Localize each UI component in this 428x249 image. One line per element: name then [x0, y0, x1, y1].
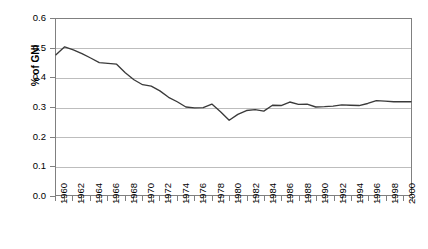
y-axis-title: % of GNI [30, 31, 41, 101]
x-axis-tick-mark [142, 196, 143, 201]
x-axis-tick-label: 1988 [303, 183, 312, 204]
y-axis-tick-label: 0.1 [12, 161, 46, 170]
x-axis-tick-label: 1996 [372, 183, 381, 204]
series-layer [56, 19, 411, 195]
y-axis-tick-label: 0.4 [12, 72, 46, 81]
x-axis-tick-mark [351, 196, 352, 201]
plot-area [55, 18, 412, 196]
x-axis-tick-mark [125, 196, 126, 201]
x-axis-tick-label: 1990 [320, 183, 329, 204]
x-axis-tick-label: 1960 [59, 183, 68, 204]
x-axis-tick-mark [194, 196, 195, 201]
x-axis-tick-label: 1998 [390, 183, 399, 204]
x-axis-tick-label: 1974 [181, 183, 190, 204]
x-axis-tick-mark [368, 196, 369, 201]
x-axis-tick-label: 1980 [233, 183, 242, 204]
x-axis-tick-mark [403, 196, 404, 201]
y-axis-tick-label: 0.0 [12, 191, 46, 200]
chart-container: % of GNI 0.00.10.20.30.40.50.6 196019621… [0, 0, 428, 249]
x-axis-tick-label: 1992 [338, 183, 347, 204]
x-axis-tick-label: 1978 [216, 183, 225, 204]
x-axis-tick-mark [247, 196, 248, 201]
x-axis-tick-label: 1968 [129, 183, 138, 204]
y-axis-tick-label: 0.2 [12, 132, 46, 141]
x-axis-tick-label: 1964 [94, 183, 103, 204]
x-axis-tick-mark [90, 196, 91, 201]
x-axis-tick-label: 1994 [355, 183, 364, 204]
x-axis-tick-label: 1982 [251, 183, 260, 204]
x-axis-tick-mark [107, 196, 108, 201]
x-axis-tick-label: 1976 [198, 183, 207, 204]
y-axis-tick-label: 0.6 [12, 13, 46, 22]
x-axis-tick-label: 1984 [268, 183, 277, 204]
x-axis-tick-label: 1972 [163, 183, 172, 204]
x-axis-tick-mark [299, 196, 300, 201]
x-axis-tick-mark [72, 196, 73, 201]
x-axis-tick-mark [55, 196, 56, 201]
x-axis-tick-mark [177, 196, 178, 201]
series-line-percent-of-gni [56, 47, 411, 120]
x-axis-tick-label: 1962 [76, 183, 85, 204]
x-axis-tick-mark [281, 196, 282, 201]
x-axis-tick-mark [386, 196, 387, 201]
x-axis-tick-label: 1986 [285, 183, 294, 204]
x-axis-tick-mark [229, 196, 230, 201]
x-axis-tick-label: 1970 [146, 183, 155, 204]
x-axis-tick-mark [212, 196, 213, 201]
x-axis-tick-mark [159, 196, 160, 201]
x-axis-tick-label: 1966 [111, 183, 120, 204]
y-axis-tick-label: 0.5 [12, 43, 46, 52]
x-axis-tick-mark [264, 196, 265, 201]
y-axis-tick-label: 0.3 [12, 102, 46, 111]
x-axis-tick-label: 2000 [407, 183, 416, 204]
x-axis-tick-mark [316, 196, 317, 201]
x-axis-tick-mark [334, 196, 335, 201]
